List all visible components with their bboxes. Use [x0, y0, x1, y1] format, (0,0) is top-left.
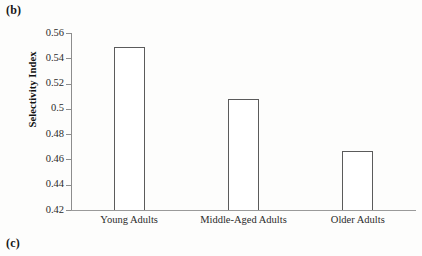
y-axis-tick-label: 0.44 [34, 179, 64, 190]
x-axis-category-label: Older Adults [301, 214, 415, 226]
y-axis-tick-label: 0.42 [34, 205, 64, 216]
y-axis-tick [66, 159, 71, 160]
y-axis-tick-labels: 0.560.540.520.50.480.460.440.42 [30, 0, 64, 232]
y-axis-tick-label: 0.54 [34, 53, 64, 64]
bar-chart: Selectivity Index 0.560.540.520.50.480.4… [0, 0, 422, 232]
y-axis-tick [66, 185, 71, 186]
y-axis-tick [66, 58, 71, 59]
y-axis-tick [66, 210, 71, 211]
bar [342, 151, 373, 210]
y-axis-tick [66, 84, 71, 85]
y-axis-tick [66, 33, 71, 34]
bar [114, 47, 145, 210]
y-axis-tick-label: 0.5 [34, 103, 64, 114]
bar [228, 99, 259, 210]
y-axis-tick-label: 0.48 [34, 129, 64, 140]
x-axis-category-label: Young Adults [72, 214, 186, 226]
y-axis-tick [66, 109, 71, 110]
y-axis-tick-label: 0.52 [34, 78, 64, 89]
panel-label-c: (c) [6, 236, 20, 251]
x-axis-line [71, 210, 416, 211]
y-axis-tick [66, 134, 71, 135]
y-axis-tick-label: 0.56 [34, 28, 64, 39]
y-axis-tick-label: 0.46 [34, 154, 64, 165]
figure-panel-b: (b) Selectivity Index 0.560.540.520.50.4… [0, 0, 422, 256]
x-axis-category-label: Middle-Aged Adults [186, 214, 300, 226]
